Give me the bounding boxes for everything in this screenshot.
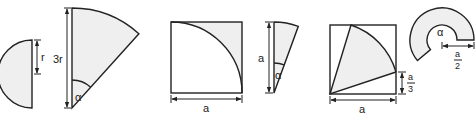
offset-label-denominator: 3 bbox=[408, 84, 413, 94]
narrow-sector-shape bbox=[274, 22, 298, 93]
geometry-figures: r α 3r a α a a bbox=[0, 0, 476, 118]
angle-label: α bbox=[437, 26, 444, 38]
semicircle-shape bbox=[0, 40, 32, 108]
side-label: 3r bbox=[53, 53, 63, 65]
side-label: a bbox=[359, 103, 366, 115]
square-sector-figure: a a 3 bbox=[330, 25, 415, 115]
side-label: a bbox=[258, 52, 265, 64]
angle-label: α bbox=[275, 69, 282, 81]
radius-label: r bbox=[41, 51, 45, 63]
sector-3r-figure: α 3r bbox=[53, 8, 139, 108]
sector-3r-shape bbox=[72, 8, 139, 108]
square-quarter-circle-figure: a bbox=[171, 22, 242, 114]
offset-label-numerator: a bbox=[408, 72, 413, 82]
width-label-denominator: 2 bbox=[455, 61, 460, 71]
side-label: a bbox=[203, 102, 210, 114]
semicircle-figure: r bbox=[0, 40, 45, 108]
annular-sector-figure: α a 2 bbox=[410, 8, 474, 71]
width-label-numerator: a bbox=[455, 49, 460, 59]
angle-label: α bbox=[75, 91, 82, 103]
narrow-sector-figure: α a bbox=[258, 22, 298, 93]
